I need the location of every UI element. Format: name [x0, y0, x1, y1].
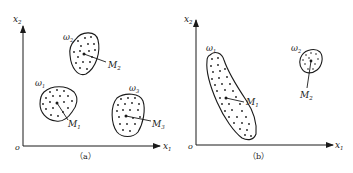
x-axis-label-b: x1 — [335, 140, 344, 151]
origin-label-a: o — [15, 143, 20, 152]
cluster-omega1-b: ω1 M1 — [206, 43, 259, 140]
center-label-m1-b: M1 — [245, 97, 259, 108]
cluster-omega2-b: ω2 M2 — [291, 43, 322, 101]
cluster-omega1-a: ω1 M1 — [35, 78, 81, 130]
cluster-omega3-a: ω3 M3 — [112, 83, 165, 137]
class-label-omega3-a: ω3 — [129, 83, 139, 94]
class-label-omega1-b: ω1 — [206, 43, 216, 54]
x-axis-label-a: x1 — [163, 141, 172, 152]
origin-label-b: o — [188, 142, 193, 151]
y-axis-label-b: x2 — [184, 14, 193, 25]
center-label-m2-a: M2 — [107, 60, 121, 71]
clustering-figure: x2 x1 o ω2 M2 — [0, 0, 353, 173]
panel-a: x2 x1 o ω2 M2 — [13, 14, 172, 161]
cluster-omega2-a: ω2 M2 — [63, 32, 121, 75]
caption-a: （a） — [75, 152, 96, 161]
class-label-omega1-a: ω1 — [35, 78, 45, 89]
caption-b: （b） — [248, 152, 269, 161]
center-label-m3-a: M3 — [151, 119, 165, 130]
center-label-m1-a: M1 — [67, 119, 81, 130]
center-label-m2-b: M2 — [299, 90, 313, 101]
y-axis-label-a: x2 — [13, 14, 22, 25]
class-label-omega2-b: ω2 — [291, 43, 301, 54]
panel-b: x2 x1 o ω1 M1 — [184, 14, 344, 161]
class-label-omega2-a: ω2 — [63, 32, 73, 43]
